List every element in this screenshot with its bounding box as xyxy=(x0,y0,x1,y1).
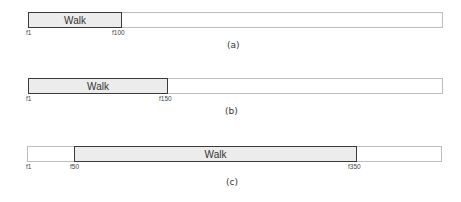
panel-c: Walk f1 f50 f350 (c) xyxy=(0,0,461,202)
panel-caption: (c) xyxy=(226,177,238,187)
timeline-track: Walk xyxy=(27,146,442,162)
tick-start-label: f1 xyxy=(26,164,31,171)
tick-segment-start-label: f50 xyxy=(70,164,79,171)
walk-segment: Walk xyxy=(74,146,357,162)
tick-segment-end-label: f350 xyxy=(348,164,361,171)
segment-label: Walk xyxy=(205,149,227,160)
